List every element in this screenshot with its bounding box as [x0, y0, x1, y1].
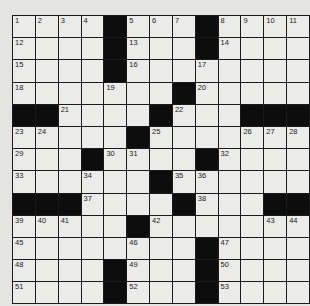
crossword-cell[interactable] — [219, 105, 241, 126]
crossword-cell[interactable]: 13 — [127, 38, 149, 59]
crossword-cell[interactable]: 3 — [59, 16, 81, 37]
crossword-cell[interactable] — [59, 149, 81, 170]
crossword-cell[interactable]: 19 — [104, 83, 126, 104]
crossword-cell[interactable] — [150, 238, 172, 259]
crossword-cell[interactable] — [196, 105, 218, 126]
crossword-cell[interactable] — [241, 282, 263, 303]
crossword-cell[interactable]: 50 — [219, 260, 241, 281]
crossword-cell[interactable]: 43 — [264, 216, 286, 237]
crossword-cell[interactable] — [264, 149, 286, 170]
crossword-cell[interactable]: 5 — [127, 16, 149, 37]
crossword-cell[interactable]: 18 — [13, 83, 35, 104]
crossword-cell[interactable] — [196, 127, 218, 148]
crossword-cell[interactable] — [264, 38, 286, 59]
crossword-cell[interactable] — [264, 60, 286, 81]
crossword-cell[interactable] — [150, 194, 172, 215]
crossword-cell[interactable] — [36, 60, 58, 81]
crossword-cell[interactable] — [219, 194, 241, 215]
crossword-cell[interactable]: 52 — [127, 282, 149, 303]
crossword-cell[interactable]: 53 — [219, 282, 241, 303]
crossword-cell[interactable]: 2 — [36, 16, 58, 37]
crossword-cell[interactable]: 40 — [36, 216, 58, 237]
crossword-cell[interactable] — [104, 194, 126, 215]
crossword-cell[interactable]: 6 — [150, 16, 172, 37]
crossword-cell[interactable]: 39 — [13, 216, 35, 237]
crossword-cell[interactable] — [241, 60, 263, 81]
crossword-cell[interactable] — [173, 149, 195, 170]
crossword-cell[interactable] — [219, 127, 241, 148]
crossword-cell[interactable]: 48 — [13, 260, 35, 281]
crossword-cell[interactable]: 12 — [13, 38, 35, 59]
crossword-cell[interactable]: 36 — [196, 171, 218, 192]
crossword-cell[interactable] — [173, 38, 195, 59]
crossword-cell[interactable] — [241, 238, 263, 259]
crossword-cell[interactable]: 44 — [287, 216, 309, 237]
crossword-cell[interactable] — [173, 238, 195, 259]
crossword-cell[interactable] — [127, 171, 149, 192]
crossword-cell[interactable] — [127, 83, 149, 104]
crossword-cell[interactable]: 15 — [13, 60, 35, 81]
crossword-cell[interactable] — [287, 260, 309, 281]
crossword-cell[interactable]: 49 — [127, 260, 149, 281]
crossword-cell[interactable] — [59, 38, 81, 59]
crossword-cell[interactable]: 35 — [173, 171, 195, 192]
crossword-cell[interactable] — [36, 282, 58, 303]
crossword-cell[interactable]: 14 — [219, 38, 241, 59]
crossword-cell[interactable]: 17 — [196, 60, 218, 81]
crossword-cell[interactable]: 10 — [264, 16, 286, 37]
crossword-cell[interactable] — [173, 260, 195, 281]
crossword-cell[interactable] — [59, 171, 81, 192]
crossword-cell[interactable]: 47 — [219, 238, 241, 259]
crossword-cell[interactable]: 42 — [150, 216, 172, 237]
crossword-cell[interactable]: 24 — [36, 127, 58, 148]
crossword-cell[interactable]: 23 — [13, 127, 35, 148]
crossword-cell[interactable] — [104, 216, 126, 237]
crossword-cell[interactable]: 8 — [219, 16, 241, 37]
crossword-cell[interactable] — [59, 260, 81, 281]
crossword-cell[interactable] — [59, 83, 81, 104]
crossword-cell[interactable] — [287, 60, 309, 81]
crossword-cell[interactable]: 38 — [196, 194, 218, 215]
crossword-cell[interactable] — [59, 60, 81, 81]
crossword-cell[interactable] — [36, 238, 58, 259]
crossword-cell[interactable]: 28 — [287, 127, 309, 148]
crossword-cell[interactable] — [264, 260, 286, 281]
crossword-cell[interactable]: 29 — [13, 149, 35, 170]
crossword-cell[interactable]: 22 — [173, 105, 195, 126]
crossword-cell[interactable]: 26 — [241, 127, 263, 148]
crossword-cell[interactable]: 34 — [82, 171, 104, 192]
crossword-cell[interactable] — [36, 171, 58, 192]
crossword-cell[interactable] — [173, 60, 195, 81]
crossword-cell[interactable]: 32 — [219, 149, 241, 170]
crossword-cell[interactable] — [196, 216, 218, 237]
crossword-cell[interactable] — [82, 282, 104, 303]
crossword-cell[interactable]: 11 — [287, 16, 309, 37]
crossword-cell[interactable] — [241, 149, 263, 170]
crossword-cell[interactable]: 4 — [82, 16, 104, 37]
crossword-cell[interactable] — [104, 105, 126, 126]
crossword-cell[interactable] — [82, 60, 104, 81]
crossword-cell[interactable] — [59, 127, 81, 148]
crossword-cell[interactable] — [82, 105, 104, 126]
crossword-cell[interactable] — [150, 260, 172, 281]
crossword-cell[interactable]: 27 — [264, 127, 286, 148]
crossword-cell[interactable] — [219, 60, 241, 81]
crossword-cell[interactable] — [287, 171, 309, 192]
crossword-cell[interactable] — [59, 282, 81, 303]
crossword-cell[interactable]: 45 — [13, 238, 35, 259]
crossword-cell[interactable]: 46 — [127, 238, 149, 259]
crossword-cell[interactable] — [104, 238, 126, 259]
crossword-cell[interactable] — [150, 83, 172, 104]
crossword-cell[interactable] — [82, 260, 104, 281]
crossword-cell[interactable]: 31 — [127, 149, 149, 170]
crossword-cell[interactable] — [173, 282, 195, 303]
crossword-cell[interactable]: 51 — [13, 282, 35, 303]
crossword-cell[interactable]: 25 — [150, 127, 172, 148]
crossword-cell[interactable] — [287, 282, 309, 303]
crossword-cell[interactable] — [127, 194, 149, 215]
crossword-cell[interactable]: 33 — [13, 171, 35, 192]
crossword-cell[interactable]: 20 — [196, 83, 218, 104]
crossword-cell[interactable] — [241, 260, 263, 281]
crossword-cell[interactable] — [150, 282, 172, 303]
crossword-cell[interactable] — [36, 38, 58, 59]
